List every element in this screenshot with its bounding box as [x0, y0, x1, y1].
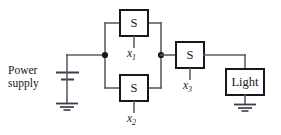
power-supply-label: Power supply — [8, 64, 54, 90]
switch-s2-variable-label: x2 — [127, 113, 136, 127]
switch-s2-variable-subscript: 2 — [132, 118, 136, 127]
switch-s3-variable-label: x3 — [183, 80, 192, 94]
switch-s3-label: S — [176, 49, 204, 62]
switch-s1-variable-label: x1 — [127, 48, 136, 62]
power-supply-label-line2: supply — [8, 77, 54, 90]
light-label: Light — [226, 76, 264, 89]
switch-s2-label: S — [120, 82, 148, 95]
switch-s1-label: S — [120, 17, 148, 30]
circuit-diagram: Power supply S S S Light x1 x2 x3 — [0, 0, 281, 135]
switch-s1-variable-subscript: 1 — [132, 53, 136, 62]
switch-s3-variable-subscript: 3 — [188, 85, 192, 94]
junction-dot-left — [102, 52, 108, 58]
power-supply-label-line1: Power — [8, 64, 54, 77]
